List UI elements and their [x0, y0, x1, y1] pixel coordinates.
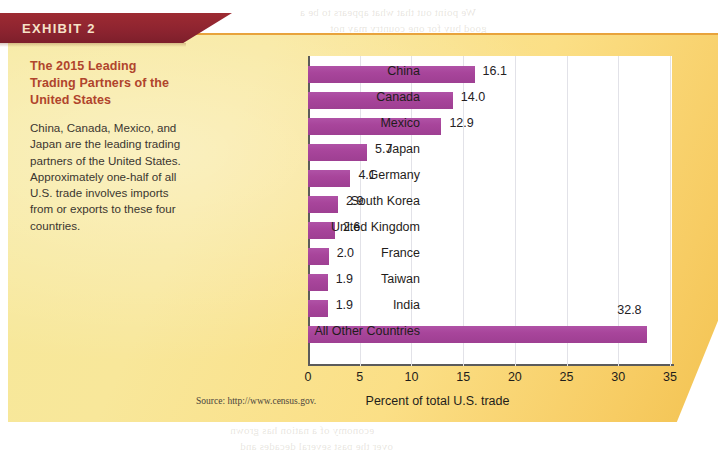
x-tick-label: 0 — [305, 370, 312, 384]
bar-value-label: 16.1 — [483, 64, 507, 78]
x-tick-label: 35 — [663, 370, 677, 384]
source-note: Source: http://www.census.gov. — [196, 396, 316, 406]
category-label: France — [240, 246, 420, 260]
bar-value-label: 14.0 — [461, 90, 485, 104]
bar-chart: 16.1China14.0Canada12.9Mexico5.7Japan4.1… — [190, 50, 685, 370]
category-label: China — [240, 64, 420, 78]
category-label: All Other Countries — [240, 324, 420, 338]
exhibit-caption: The 2015 Leading Trading Partners of the… — [30, 58, 182, 234]
category-label: Canada — [240, 90, 420, 104]
bleed-line: economy of a nation has grown — [230, 424, 374, 436]
x-tick-label: 20 — [508, 370, 522, 384]
x-tick-label: 5 — [356, 370, 363, 384]
category-label: South Korea — [240, 194, 420, 208]
exhibit-banner-label: EXHIBIT 2 — [22, 21, 96, 36]
plot-area: 16.1China14.0Canada12.9Mexico5.7Japan4.1… — [308, 56, 672, 366]
bar-value-label: 12.9 — [449, 116, 473, 130]
category-label: United Kingdom — [240, 220, 420, 234]
exhibit-description: China, Canada, Mexico, and Japan are the… — [30, 120, 182, 234]
bleed-line: good buy for one country may not — [330, 22, 487, 34]
bleed-line: over the past several decades and — [240, 440, 393, 450]
banner-shadow — [0, 43, 186, 47]
exhibit-title: The 2015 Leading Trading Partners of the… — [30, 58, 182, 109]
bleed-line: We point out that what appears to be a — [300, 6, 476, 18]
category-label: Japan — [240, 142, 420, 156]
bar-value-label: 32.8 — [617, 303, 641, 317]
category-label: Mexico — [240, 116, 420, 130]
x-tick-label: 30 — [611, 370, 625, 384]
category-label: Taiwan — [240, 272, 420, 286]
x-tick-label: 15 — [456, 370, 470, 384]
exhibit-figure: We point out that what appears to be a g… — [0, 0, 726, 450]
category-label: India — [240, 298, 420, 312]
category-label: Germany — [240, 168, 420, 182]
x-tick-label: 10 — [404, 370, 418, 384]
x-tick-label: 25 — [560, 370, 574, 384]
